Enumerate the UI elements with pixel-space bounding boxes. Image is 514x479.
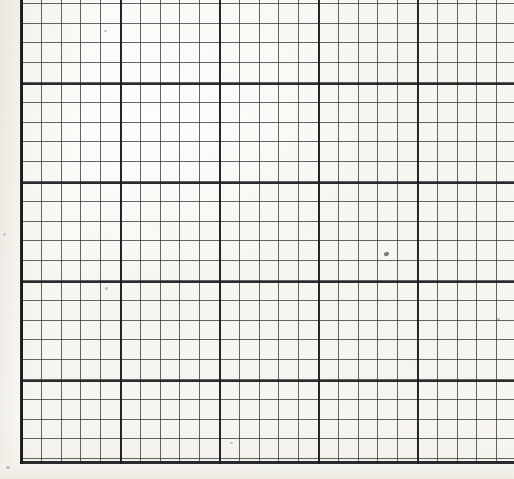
graph-paper-page xyxy=(0,0,514,479)
scan-vignette-overlay xyxy=(0,0,514,479)
